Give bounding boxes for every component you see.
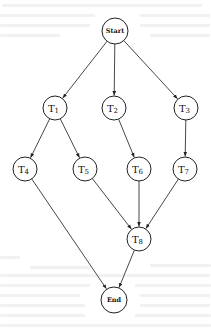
node-label: Start	[106, 27, 124, 35]
edge-start-to-t1	[63, 41, 107, 98]
edge-t3-to-t7	[185, 120, 186, 157]
node-t8: T8	[127, 227, 151, 251]
edge-t7-to-t8	[146, 179, 179, 229]
node-t7: T7	[173, 157, 197, 181]
arrow-line	[114, 44, 115, 96]
node-t4: T4	[13, 157, 37, 181]
edge-start-to-t3	[124, 41, 178, 99]
edge-t8-to-end	[119, 250, 134, 287]
node-t6: T6	[127, 157, 151, 181]
node-end: End	[101, 287, 127, 313]
nodes-layer: StartT1T2T3T4T5T6T7T8End	[13, 18, 198, 313]
arrow-line	[31, 119, 50, 158]
arrow-line	[146, 179, 179, 229]
edge-start-to-t2	[114, 44, 115, 96]
arrow-line	[119, 250, 134, 287]
edge-t1-to-t4	[31, 119, 50, 158]
node-t5: T5	[73, 157, 97, 181]
arrow-line	[124, 41, 178, 99]
edge-t1-to-t5	[60, 119, 79, 158]
arrow-line	[119, 119, 135, 157]
arrow-line	[32, 179, 107, 289]
edge-t5-to-t8	[92, 179, 131, 230]
arrow-line	[185, 120, 186, 157]
node-t1: T1	[43, 96, 67, 120]
task-graph: StartT1T2T3T4T5T6T7T8End	[0, 0, 211, 336]
node-label: End	[107, 296, 122, 304]
edges-layer	[31, 41, 186, 289]
edge-t2-to-t6	[119, 119, 135, 157]
arrow-line	[63, 41, 107, 98]
node-start: Start	[102, 18, 128, 44]
arrow-line	[60, 119, 79, 158]
edge-t4-to-end	[32, 179, 107, 289]
node-t3: T3	[174, 96, 198, 120]
arrow-line	[92, 179, 131, 230]
node-t2: T2	[102, 96, 126, 120]
